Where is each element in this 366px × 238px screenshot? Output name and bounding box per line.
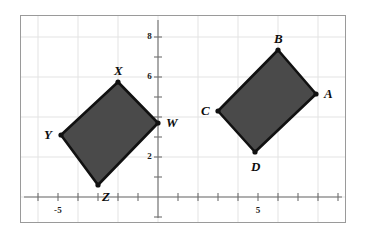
vertex-dot-b	[275, 47, 280, 52]
vertex-label-b: B	[274, 31, 283, 47]
vertex-dot-d	[252, 149, 257, 154]
vertex-label-a: A	[324, 86, 333, 102]
axis-lines	[24, 20, 342, 218]
vertex-label-d: D	[251, 159, 260, 175]
vertex-dot-a	[313, 91, 318, 96]
y-axis-tick-label: 6	[140, 71, 152, 81]
y-axis-tick-label: 2	[140, 151, 152, 161]
vertex-label-x: X	[114, 63, 123, 79]
y-axis-tick-label: 8	[140, 31, 152, 41]
plot-canvas	[0, 0, 366, 238]
vertex-dot-y	[58, 132, 63, 137]
quadrilateral-wxyz	[61, 82, 158, 185]
quadrilateral-abcd	[218, 50, 316, 152]
coordinate-plane-figure: -55862 WXYZABCD	[0, 0, 366, 238]
x-axis-tick-label: -5	[49, 205, 67, 215]
vertex-label-c: C	[201, 103, 210, 119]
grid-lines	[21, 16, 345, 222]
vertex-dot-x	[115, 79, 120, 84]
vertex-label-w: W	[166, 115, 178, 131]
x-axis-tick-label: 5	[249, 205, 267, 215]
vertex-dot-z	[95, 182, 100, 187]
vertex-label-y: Y	[44, 127, 52, 143]
vertex-dot-w	[155, 120, 160, 125]
vertex-dot-c	[215, 108, 220, 113]
vertex-label-z: Z	[102, 189, 110, 205]
